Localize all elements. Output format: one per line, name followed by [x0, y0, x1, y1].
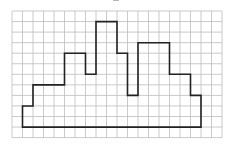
grid-diagram: [0, 0, 229, 144]
